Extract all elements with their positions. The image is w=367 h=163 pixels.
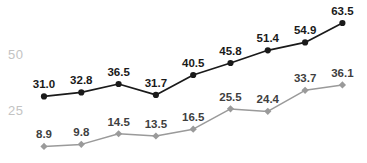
data-point-label: 40.5: [182, 58, 204, 70]
data-point-label: 32.8: [70, 75, 92, 87]
data-point-marker: [115, 130, 122, 137]
data-point-label: 54.9: [294, 25, 316, 37]
data-point-label: 14.5: [107, 117, 129, 129]
data-point-marker: [116, 81, 122, 87]
data-point-marker: [78, 141, 85, 148]
data-point-marker: [40, 143, 47, 150]
data-point-marker: [264, 108, 271, 115]
data-point-label: 13.5: [145, 119, 167, 131]
data-point-label: 16.5: [182, 112, 204, 124]
data-point-marker: [152, 132, 159, 139]
data-point-label: 33.7: [294, 73, 316, 85]
data-point-marker: [302, 39, 308, 45]
data-point-marker: [153, 92, 159, 98]
data-point-label: 31.7: [145, 78, 167, 90]
data-point-marker: [78, 89, 84, 95]
data-point-marker: [265, 47, 271, 53]
data-point-marker: [227, 60, 233, 66]
data-point-label: 63.5: [331, 6, 353, 18]
data-point-label: 8.9: [36, 129, 52, 141]
data-point-label: 9.8: [73, 127, 89, 139]
data-point-marker: [339, 20, 345, 26]
data-point-marker: [339, 81, 346, 88]
data-point-label: 36.5: [107, 67, 129, 79]
data-point-label: 45.8: [219, 46, 241, 58]
data-point-label: 51.4: [257, 33, 279, 45]
data-point-label: 36.1: [331, 68, 353, 80]
data-point-label: 25.5: [219, 92, 241, 104]
data-point-marker: [302, 87, 309, 94]
data-point-marker: [41, 93, 47, 99]
y-axis-tick-25: 25: [8, 104, 23, 117]
data-point-marker: [190, 126, 197, 133]
data-point-label: 24.4: [257, 94, 279, 106]
data-point-marker: [227, 105, 234, 112]
line-chart: 5025 31.032.836.531.740.545.851.454.963.…: [0, 0, 367, 163]
y-axis-tick-50: 50: [8, 48, 23, 61]
data-point-label: 31.0: [33, 79, 55, 91]
data-point-marker: [190, 72, 196, 78]
